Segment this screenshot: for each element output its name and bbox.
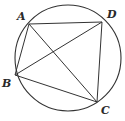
cyclic-quadrilateral-diagram: A D B C bbox=[0, 0, 125, 121]
side-AD bbox=[29, 22, 102, 24]
vertex-label-B: B bbox=[1, 77, 11, 90]
side-DC bbox=[97, 22, 102, 102]
vertex-label-D: D bbox=[106, 8, 117, 21]
circumscribed-circle bbox=[15, 5, 121, 111]
vertex-label-A: A bbox=[16, 10, 26, 23]
vertex-label-C: C bbox=[101, 104, 110, 117]
diagonal-BD bbox=[15, 22, 102, 75]
